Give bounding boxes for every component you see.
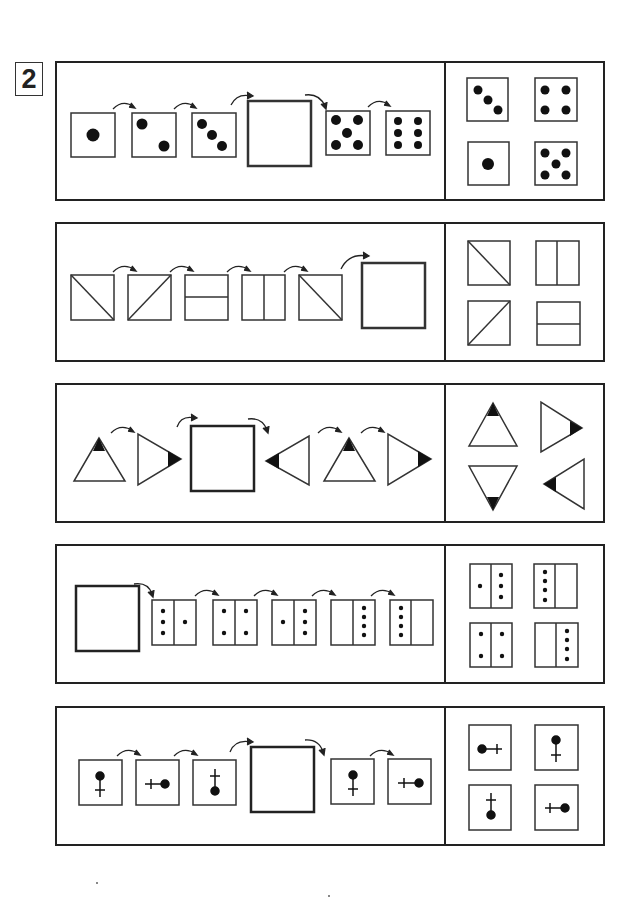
option-pin-left-icon: [469, 725, 511, 770]
arrow-icons: [111, 414, 384, 433]
exercise-number-label: 2: [15, 62, 43, 96]
die-two-icon: [132, 113, 176, 157]
scan-speck: [328, 895, 330, 897]
puzzle-row-pins: [55, 706, 605, 846]
pin-right-icon: [388, 759, 431, 804]
puzzle-row-dice: [55, 61, 605, 201]
blank-answer-box: [248, 101, 311, 166]
blank-answer-box: [76, 586, 139, 651]
pin-right-icon: [136, 760, 179, 805]
domino-sequence-drawing: [57, 546, 602, 681]
arrow-icons: [134, 584, 394, 597]
scan-speck: [96, 882, 98, 884]
puzzle-row-triangles: [55, 383, 605, 523]
pin-sequence-drawing: [57, 708, 602, 843]
arrow-icons: [113, 252, 369, 272]
dice-sequence-drawing: [57, 63, 602, 198]
option-pin-down-icon: [469, 785, 511, 830]
puzzle-row-line-splits: [55, 222, 605, 362]
line-split-sequence-drawing: [57, 224, 602, 359]
puzzle-row-domino-dots: [55, 544, 605, 684]
blank-answer-box: [191, 426, 254, 491]
blank-answer-box: [251, 747, 314, 812]
option-die-four-icon: [535, 78, 577, 121]
blank-answer-box: [362, 263, 425, 328]
triangle-sequence-drawing: [57, 385, 602, 520]
die-six-icon: [386, 111, 430, 155]
